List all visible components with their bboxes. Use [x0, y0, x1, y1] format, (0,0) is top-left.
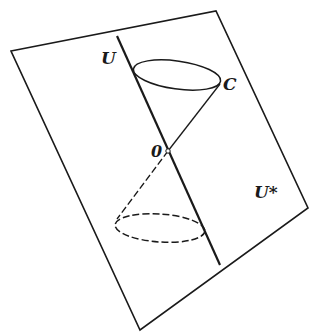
lower-cone-rim — [114, 211, 206, 245]
diagram-canvas: U C 0 U* — [0, 0, 319, 332]
plane-u-star — [11, 11, 308, 330]
upper-cone-rim — [131, 55, 222, 95]
lower-cone-generator — [117, 151, 168, 219]
light-cone-figure: U C 0 U* — [0, 0, 319, 332]
origin-point — [166, 149, 170, 153]
label-c: C — [223, 74, 237, 94]
label-origin: 0 — [151, 142, 162, 161]
label-u: U — [101, 48, 117, 68]
label-u-star: U* — [254, 182, 278, 202]
upper-cone-generator — [168, 84, 220, 151]
